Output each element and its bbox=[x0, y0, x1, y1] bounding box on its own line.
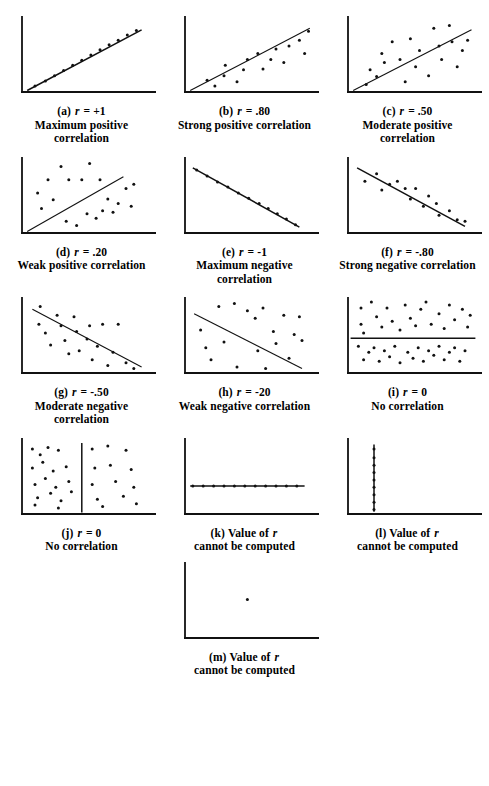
data-point bbox=[101, 209, 104, 212]
data-point bbox=[303, 52, 306, 55]
panel-m: (m)Value of r cannot be computed bbox=[163, 560, 326, 678]
data-point bbox=[88, 324, 91, 327]
data-point bbox=[107, 43, 110, 46]
data-point bbox=[359, 306, 362, 309]
data-point bbox=[264, 367, 267, 370]
caption-k: (k)Value of r cannot be computed bbox=[194, 527, 295, 554]
data-point bbox=[411, 357, 414, 360]
data-point bbox=[368, 68, 371, 71]
data-point bbox=[199, 329, 202, 332]
scatterplot-l bbox=[332, 436, 484, 524]
data-point bbox=[41, 460, 44, 463]
data-point bbox=[98, 178, 101, 181]
data-point bbox=[132, 367, 135, 370]
scatterplot-f bbox=[332, 155, 484, 243]
data-point bbox=[51, 198, 54, 201]
scatterplot-k bbox=[169, 436, 321, 524]
data-point bbox=[421, 204, 424, 207]
data-point bbox=[64, 219, 67, 222]
r-value-k: Value of r bbox=[228, 527, 279, 539]
data-point bbox=[59, 324, 62, 327]
data-point bbox=[385, 306, 388, 309]
data-point bbox=[447, 303, 450, 306]
data-point bbox=[111, 351, 114, 354]
panel-j: (j)r = 0 No correlation bbox=[0, 436, 163, 554]
data-point bbox=[124, 448, 127, 451]
panel-label-h: (h) bbox=[218, 386, 235, 398]
caption-line1-d: Weak positive correlation bbox=[17, 259, 145, 273]
data-point bbox=[36, 496, 39, 499]
data-point bbox=[453, 318, 456, 321]
caption-line1-m: cannot be computed bbox=[194, 664, 295, 678]
scatterplot-m bbox=[169, 560, 321, 648]
data-point bbox=[245, 309, 248, 312]
data-point bbox=[98, 48, 101, 51]
data-point bbox=[466, 39, 469, 42]
data-point bbox=[63, 339, 66, 342]
r-value-i: r = 0 bbox=[402, 386, 427, 398]
data-point bbox=[364, 83, 367, 86]
data-point bbox=[204, 346, 207, 349]
data-point bbox=[398, 361, 401, 364]
data-point bbox=[37, 323, 40, 326]
data-point bbox=[59, 164, 62, 167]
data-point bbox=[116, 201, 119, 204]
caption-line1-j: No correlation bbox=[45, 540, 117, 554]
r-value-f: r = -.80 bbox=[396, 246, 434, 258]
data-point bbox=[458, 360, 461, 363]
data-point bbox=[67, 178, 70, 181]
data-point bbox=[274, 48, 277, 51]
data-point bbox=[89, 54, 92, 57]
data-point bbox=[116, 39, 119, 42]
axes-and-points-l bbox=[332, 436, 484, 524]
panel-label-m: (m) bbox=[209, 651, 230, 663]
data-point bbox=[282, 61, 285, 64]
data-point bbox=[372, 447, 375, 450]
caption-line1-a: Maximum positive bbox=[35, 119, 128, 133]
data-point bbox=[209, 358, 212, 361]
data-point bbox=[95, 497, 98, 500]
data-point bbox=[372, 478, 375, 481]
caption-line2-a: correlation bbox=[35, 132, 128, 146]
data-point bbox=[43, 332, 46, 335]
data-point bbox=[62, 69, 65, 72]
panel-label-j: (j) bbox=[62, 527, 77, 539]
axes-and-points-b bbox=[169, 14, 321, 102]
data-point bbox=[212, 484, 215, 487]
r-value-a: r = +1 bbox=[74, 105, 106, 117]
axes-and-points-h bbox=[169, 295, 321, 383]
data-point bbox=[437, 312, 440, 315]
data-point bbox=[287, 45, 290, 48]
panel-label-f: (f) bbox=[381, 246, 396, 258]
data-point bbox=[390, 40, 393, 43]
axes-and-points-f bbox=[332, 155, 484, 243]
panel-label-g: (g) bbox=[54, 386, 71, 398]
data-point bbox=[85, 337, 88, 340]
r-value-d: r = .20 bbox=[73, 246, 107, 258]
data-point bbox=[235, 80, 238, 83]
data-point bbox=[49, 343, 52, 346]
data-point bbox=[375, 172, 378, 175]
data-point bbox=[264, 484, 267, 487]
panel-label-e: (e) bbox=[222, 246, 238, 258]
scatterplot-a bbox=[6, 14, 158, 102]
data-point bbox=[372, 508, 375, 511]
data-point bbox=[393, 345, 396, 348]
data-point bbox=[295, 484, 298, 487]
data-point bbox=[71, 64, 74, 67]
caption-line1-e: Maximum negative bbox=[196, 259, 292, 273]
axes-and-points-m bbox=[169, 560, 321, 648]
data-point bbox=[418, 49, 421, 52]
caption-line2-c: correlation bbox=[362, 132, 452, 146]
panel-d: (d)r = .20 Weak positive correlation bbox=[0, 155, 163, 287]
data-point bbox=[274, 484, 277, 487]
data-point bbox=[106, 197, 109, 200]
data-point bbox=[363, 179, 366, 182]
data-point bbox=[300, 339, 303, 342]
data-point bbox=[132, 485, 135, 488]
data-point bbox=[429, 323, 432, 326]
data-point bbox=[243, 484, 246, 487]
axes-and-points-k bbox=[169, 436, 321, 524]
data-point bbox=[43, 79, 46, 82]
data-point bbox=[213, 85, 216, 88]
